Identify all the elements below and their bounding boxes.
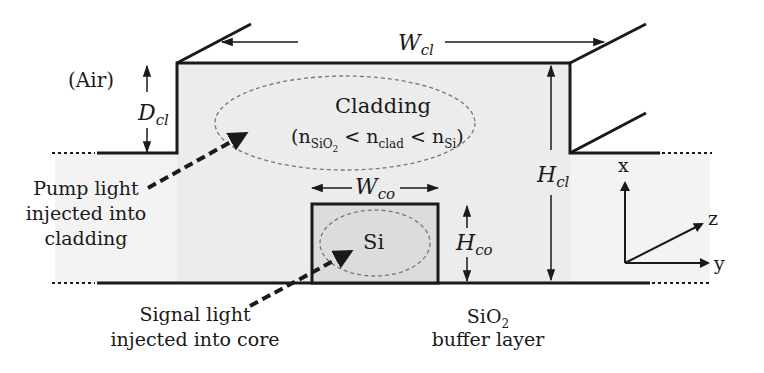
perspective-line-right-top (570, 24, 646, 63)
waveguide-diagram: Wcl Dcl (Air) Hcl Wco Hco Cladding (nSiO… (0, 0, 764, 373)
perspective-line-right-bottom (570, 113, 646, 153)
air-label: (Air) (68, 68, 114, 92)
buffer-layer-label-line2: buffer layer (432, 328, 546, 350)
pump-light-label-line1: Pump light (33, 177, 139, 199)
cladding-title: Cladding (335, 94, 431, 118)
x-axis-label: x (618, 154, 629, 176)
y-axis-label: y (713, 252, 725, 274)
pump-light-label-line3: cladding (45, 227, 128, 249)
z-axis-label: z (708, 207, 718, 229)
perspective-line-left (177, 24, 251, 63)
signal-light-label-line2: injected into core (110, 328, 279, 350)
signal-light-label-line1: Signal light (139, 303, 250, 325)
core-material-label: Si (363, 230, 384, 254)
d-cl-label: Dcl (137, 100, 169, 129)
pump-light-label-line2: injected into (26, 202, 147, 224)
w-cl-label: Wcl (398, 30, 434, 59)
